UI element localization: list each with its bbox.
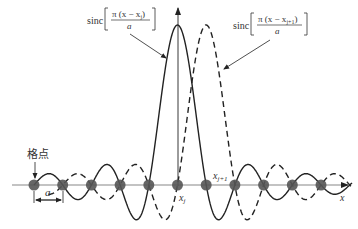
svg-text:a: a bbox=[275, 26, 280, 36]
lattice-point bbox=[229, 180, 240, 191]
sinc-interpolation-diagram: a 格点 xj xj+1 x sinc π (x − xj) a sinc π … bbox=[0, 0, 358, 229]
xj-label: xj bbox=[178, 192, 185, 205]
lattice-point bbox=[258, 180, 269, 191]
lattice-point bbox=[143, 180, 154, 191]
svg-text:sinc: sinc bbox=[233, 20, 250, 31]
svg-text:a: a bbox=[127, 21, 132, 31]
svg-text:π (x − xj+1): π (x − xj+1) bbox=[258, 14, 297, 25]
spacing-label: a bbox=[45, 186, 51, 198]
xj1-label: xj+1 bbox=[212, 170, 228, 183]
lattice-point bbox=[57, 180, 68, 191]
formula-left-pointer bbox=[130, 34, 166, 58]
formula-left: sinc π (x − xj) a bbox=[87, 8, 155, 31]
sinc-curve-xj1 bbox=[48, 25, 352, 220]
sinc-curve-xj bbox=[34, 25, 352, 220]
formula-right: sinc π (x − xj+1) a bbox=[233, 13, 307, 36]
lattice-point bbox=[287, 180, 298, 191]
lattice-point bbox=[115, 180, 126, 191]
svg-text:sinc: sinc bbox=[87, 15, 104, 26]
lattice-point-label: 格点 bbox=[27, 147, 49, 161]
lattice-point bbox=[172, 180, 183, 191]
lattice-point bbox=[29, 180, 40, 191]
lattice-point bbox=[316, 180, 327, 191]
svg-text:π (x − xj): π (x − xj) bbox=[112, 9, 145, 20]
axis-label: x bbox=[339, 192, 345, 203]
lattice-point bbox=[201, 180, 212, 191]
lattice-point bbox=[86, 180, 97, 191]
formula-right-pointer bbox=[224, 40, 270, 69]
